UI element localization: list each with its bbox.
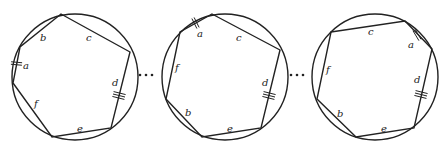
side-label-a: a xyxy=(197,28,203,39)
ellipsis-dot xyxy=(290,74,293,77)
ellipsis-dot xyxy=(151,74,154,77)
side-label-a: a xyxy=(408,39,414,50)
hexagon-diagram: bcadfeacfdbecafdbe xyxy=(0,0,448,153)
side-label-f: f xyxy=(33,98,40,109)
side-label-e: e xyxy=(227,123,233,134)
side-label-a: a xyxy=(23,60,29,71)
side-label-c: c xyxy=(86,32,92,43)
side-label-f: f xyxy=(174,62,181,73)
ellipsis-dot xyxy=(145,74,148,77)
side-label-b: b xyxy=(40,32,46,43)
hexagon-2 xyxy=(166,14,280,137)
side-label-f: f xyxy=(325,64,332,75)
ellipsis-dot xyxy=(296,74,299,77)
side-label-e: e xyxy=(381,123,387,134)
side-label-b: b xyxy=(185,107,191,118)
side-label-d: d xyxy=(414,74,420,85)
tick-mark xyxy=(11,62,22,63)
side-label-b: b xyxy=(337,108,343,119)
side-label-c: c xyxy=(368,26,374,37)
ellipsis-dot xyxy=(139,74,142,77)
circle-2 xyxy=(162,14,288,140)
ellipsis-dot xyxy=(302,74,305,77)
side-label-c: c xyxy=(236,32,242,43)
side-label-d: d xyxy=(262,77,268,88)
side-label-e: e xyxy=(77,123,83,134)
diagram-canvas: bcadfeacfdbecafdbe xyxy=(0,0,448,153)
circle-1 xyxy=(12,14,138,140)
side-label-d: d xyxy=(112,77,118,88)
